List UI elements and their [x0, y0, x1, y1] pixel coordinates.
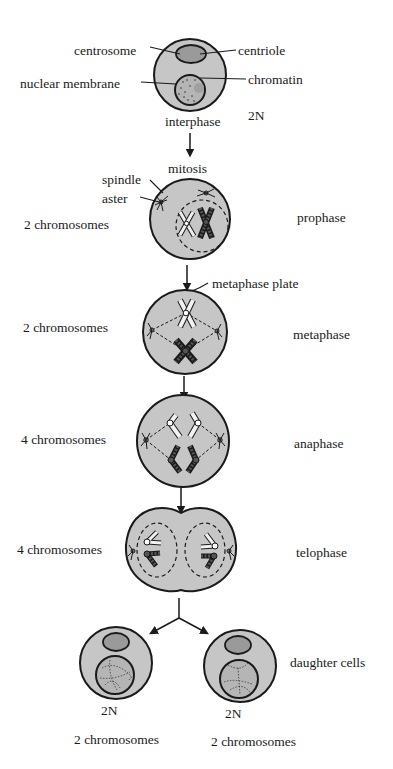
label-telophase: telophase [296, 546, 347, 560]
anaphase-cell [137, 395, 229, 487]
label-nuclear-membrane: nuclear membrane [20, 77, 120, 91]
metaphase-cell [143, 283, 227, 374]
prophase-cell [140, 179, 230, 259]
label-interphase-ploidy: 2N [248, 109, 265, 123]
label-anaphase: anaphase [294, 437, 343, 451]
label-right-count: 2 chromosomes [211, 735, 296, 749]
label-mitosis: mitosis [168, 162, 207, 176]
interphase-cell [141, 39, 246, 111]
split-arrows [153, 598, 205, 632]
label-aster: aster [102, 192, 127, 206]
label-spindle: spindle [102, 173, 141, 187]
label-chromatin: chromatin [248, 73, 303, 87]
label-prophase: prophase [297, 211, 346, 225]
label-metaphase-plate: metaphase plate [212, 277, 299, 291]
daughter-cell-right [204, 630, 276, 702]
label-left-count: 2 chromosomes [74, 733, 159, 747]
label-centrosome: centrosome [74, 44, 136, 58]
label-daughter-cells: daughter cells [290, 656, 365, 670]
label-prophase-count: 2 chromosomes [24, 218, 109, 232]
label-left-ploidy: 2N [101, 704, 118, 718]
label-anaphase-count: 4 chromosomes [21, 433, 106, 447]
label-interphase: interphase [165, 115, 220, 129]
telophase-cell [126, 508, 236, 591]
label-right-ploidy: 2N [225, 707, 242, 721]
label-metaphase-count: 2 chromosomes [23, 321, 108, 335]
label-metaphase: metaphase [293, 328, 350, 342]
daughter-cell-left [80, 627, 152, 699]
label-telophase-count: 4 chromosomes [17, 543, 102, 557]
label-centriole: centriole [238, 44, 285, 58]
